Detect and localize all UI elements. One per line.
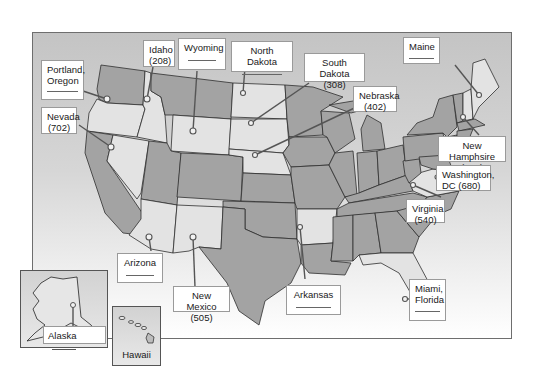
label-portland-oregon: Portland, Oregon: [41, 60, 84, 100]
marker-idaho: [144, 96, 150, 102]
label-washington-dc-line1: Washington,: [442, 169, 494, 180]
label-nevada: Nevada (702): [41, 107, 77, 134]
marker-maine: [477, 93, 482, 98]
state-colorado: [177, 153, 243, 201]
marker-arkansas: [298, 225, 303, 230]
marker-nebraska: [253, 153, 258, 158]
state-michigan: [361, 115, 385, 151]
label-new-hampshire: New Hamphsire (603): [438, 136, 506, 162]
marker-wyoming: [190, 128, 196, 134]
marker-north-dakota: [241, 91, 246, 96]
label-new-mexico-line1: New Mexico: [186, 290, 216, 312]
state-oregon: [87, 99, 145, 137]
label-virginia: Virginia (540): [406, 199, 445, 223]
label-alaska: Alaska: [43, 326, 106, 344]
label-virginia-line1: Virginia: [412, 203, 444, 214]
wyoming-answer-blank[interactable]: [188, 60, 217, 61]
state-kansas: [241, 173, 295, 203]
label-arizona: Arizona: [117, 253, 163, 283]
marker-miami: [403, 297, 408, 302]
label-washington-dc-line2: DC (680): [442, 180, 481, 191]
label-washington-dc: Washington, DC (680): [436, 165, 491, 191]
state-north-dakota: [231, 83, 287, 119]
marker-south-dakota: [249, 121, 254, 126]
label-nebraska: Nebraska (402): [353, 86, 397, 112]
label-portland-line1: Portland,: [47, 64, 85, 75]
label-idaho-line1: Idaho: [149, 44, 173, 55]
portland-answer-blank[interactable]: [47, 91, 78, 92]
label-arkansas-line1: Arkansas: [294, 289, 334, 300]
miami-answer-blank[interactable]: [415, 311, 440, 312]
label-nebraska-line2: (402): [364, 101, 386, 112]
label-arizona-line1: Arizona: [124, 257, 156, 268]
state-maine: [471, 59, 499, 119]
label-nebraska-line1: Nebraska: [359, 90, 400, 101]
label-idaho: Idaho (208): [143, 40, 175, 67]
north-dakota-answer-blank[interactable]: [242, 74, 282, 75]
label-alaska-line1: Alaska: [48, 330, 77, 341]
marker-new-hampshire: [461, 115, 466, 120]
marker-new-mexico: [190, 234, 196, 240]
label-new-mexico-line2: (505): [190, 312, 212, 323]
label-wyoming: Wyoming: [178, 38, 226, 70]
label-south-dakota: South Dakota (308): [304, 53, 365, 82]
label-portland-line2: Oregon: [47, 75, 79, 86]
state-new-york: [407, 95, 457, 137]
label-south-dakota-line2: (308): [323, 79, 345, 90]
label-new-hampshire-line1: New Hamphsire: [449, 140, 495, 162]
arkansas-answer-blank[interactable]: [296, 307, 330, 308]
label-new-mexico: New Mexico (505): [173, 286, 230, 312]
state-mississippi: [331, 215, 353, 261]
marker-nevada: [108, 144, 114, 150]
state-new-mexico: [173, 205, 223, 253]
hawaii-inset: Hawaii: [112, 306, 161, 366]
label-idaho-line2: (208): [149, 55, 171, 66]
label-nevada-line1: Nevada: [47, 111, 80, 122]
state-wyoming: [171, 115, 231, 155]
state-south-dakota: [229, 119, 289, 153]
arizona-answer-blank[interactable]: [126, 275, 153, 276]
maine-answer-blank[interactable]: [409, 58, 434, 59]
label-miami-florida: Miami, Florida: [409, 279, 446, 321]
marker-portland: [104, 96, 110, 102]
label-hawaii: Hawaii: [113, 349, 160, 360]
marker-arizona: [146, 234, 152, 240]
label-north-dakota: North Dakota: [231, 41, 293, 72]
label-south-dakota-line1: South Dakota: [319, 57, 349, 79]
label-arkansas: Arkansas: [286, 285, 341, 315]
label-miami-line1: Miami,: [415, 283, 443, 294]
label-wyoming-line1: Wyoming: [184, 42, 224, 53]
alaska-answer-blank[interactable]: [52, 349, 76, 350]
alaska-inset: Alaska: [20, 270, 108, 348]
label-nevada-line2: (702): [48, 122, 70, 133]
label-miami-line2: Florida: [415, 294, 444, 305]
marker-virginia: [411, 183, 416, 188]
state-iowa: [283, 137, 335, 167]
label-virginia-line2: (540): [414, 214, 436, 225]
label-maine: Maine: [403, 37, 440, 64]
label-north-dakota-line1: North Dakota: [247, 45, 277, 67]
label-maine-line1: Maine: [409, 41, 435, 52]
